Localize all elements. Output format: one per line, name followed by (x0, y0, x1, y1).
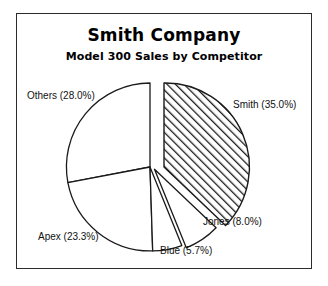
chart-subtitle: Model 300 Sales by Competitor (17, 50, 311, 63)
pie-label-others: Others (28.0%) (27, 90, 95, 101)
pie-label-smith: Smith (35.0%) (233, 99, 296, 110)
page-title: Smith Company (17, 25, 311, 45)
pie-label-apex: Apex (23.3%) (38, 231, 99, 242)
pie-label-jones: Jones (8.0%) (203, 216, 262, 227)
pie-label-blue: Blue (5.7%) (160, 245, 212, 256)
